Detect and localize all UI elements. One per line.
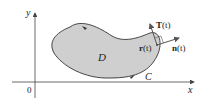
y-axis-label: y: [25, 7, 31, 18]
tangent-label: T(t): [156, 20, 171, 30]
position-label: r(t): [139, 43, 152, 53]
region-label-d: D: [97, 51, 106, 63]
x-axis-label: x: [187, 84, 193, 95]
diagram-canvas: y x 0 D C T(t) r(t) n(t): [0, 0, 205, 102]
curve-label-c: C: [145, 71, 152, 82]
origin-label: 0: [27, 85, 32, 95]
normal-label: n(t): [172, 43, 186, 53]
